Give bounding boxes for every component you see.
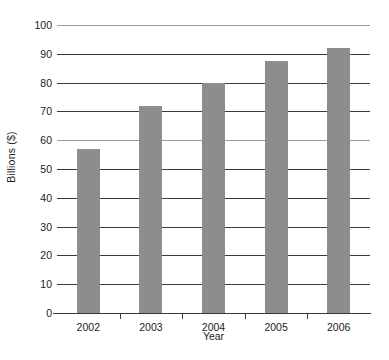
bar	[202, 83, 225, 313]
x-axis-title: Year	[57, 330, 370, 342]
x-axis-tick-mark	[307, 314, 308, 319]
bar	[327, 48, 350, 313]
y-axis-tick-label: 0	[22, 308, 52, 319]
y-axis-title-text: Billions ($)	[5, 131, 17, 182]
bar-chart: Billions ($) 0102030405060708090100 2002…	[0, 0, 389, 360]
gridline	[57, 25, 370, 26]
y-axis-tick-label: 70	[22, 106, 52, 117]
bar	[265, 61, 288, 313]
plot-area	[57, 25, 370, 313]
y-axis-tick-labels: 0102030405060708090100	[22, 0, 52, 360]
y-axis-tick-label: 40	[22, 193, 52, 204]
y-axis-tick-label: 50	[22, 164, 52, 175]
y-axis-title: Billions ($)	[0, 0, 22, 313]
x-axis-tick-mark	[245, 314, 246, 319]
gridline	[57, 54, 370, 55]
x-axis-tick-mark	[120, 314, 121, 319]
bar	[77, 149, 100, 313]
y-axis-tick-label: 30	[22, 221, 52, 232]
y-axis-tick-label: 80	[22, 77, 52, 88]
y-axis-tick-label: 20	[22, 250, 52, 261]
y-axis-tick-label: 100	[22, 20, 52, 31]
y-axis-tick-label: 60	[22, 135, 52, 146]
x-axis-line	[53, 313, 371, 314]
y-axis-tick-label: 10	[22, 279, 52, 290]
x-axis-tick-mark	[182, 314, 183, 319]
bar	[139, 106, 162, 313]
y-axis-tick-label: 90	[22, 49, 52, 60]
